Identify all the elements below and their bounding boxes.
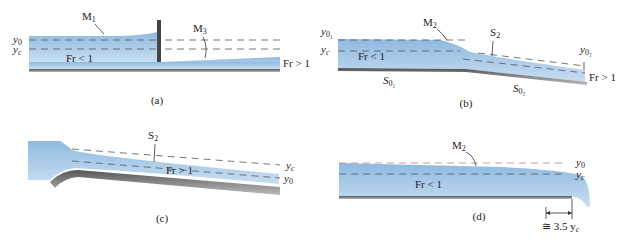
water-upstream bbox=[29, 32, 157, 62]
label-froude-sub: Fr < 1 bbox=[66, 52, 93, 64]
panel-d: M2 y0 yc Fr < 1 ≅ 3.5 yc (d) bbox=[339, 139, 590, 234]
label-yc-c: yc bbox=[285, 159, 295, 173]
label-slope1: S0₁ bbox=[383, 74, 396, 88]
panel-a: M1 M3 y0 yc Fr < 1 Fr > 1 (a) bbox=[12, 10, 310, 107]
caption-a: (a) bbox=[151, 94, 164, 107]
arrow-s2 bbox=[492, 41, 493, 56]
water-d bbox=[339, 163, 590, 207]
label-m3: M3 bbox=[193, 22, 207, 36]
label-y02: y0₂ bbox=[579, 43, 592, 57]
channel-bed bbox=[29, 69, 280, 72]
panel-b: M2 S2 y0₁ yc y0₂ Fr < 1 Fr > 1 S0₁ S0₂ (… bbox=[320, 16, 616, 110]
label-m2: M2 bbox=[423, 16, 437, 30]
label-froude-super: Fr > 1 bbox=[283, 57, 310, 69]
label-yc-d: yc bbox=[575, 168, 585, 182]
label-froude-c: Fr > 1 bbox=[166, 164, 193, 176]
arrow-s2-c bbox=[154, 144, 155, 162]
dimension-marker bbox=[546, 199, 572, 219]
label-y01: y0₁ bbox=[320, 25, 333, 39]
label-froude-d: Fr < 1 bbox=[415, 178, 442, 190]
label-froude-sub-b: Fr < 1 bbox=[358, 50, 385, 62]
caption-d: (d) bbox=[473, 210, 486, 223]
label-slope2: S0₂ bbox=[513, 82, 526, 96]
label-m2-d: M2 bbox=[452, 139, 466, 153]
caption-c: (c) bbox=[156, 212, 169, 225]
label-s2-c: S2 bbox=[148, 129, 158, 143]
caption-b: (b) bbox=[460, 97, 473, 110]
label-yc-b: yc bbox=[320, 43, 330, 57]
panel-c: S2 yc y0 Fr > 1 (c) bbox=[28, 129, 295, 225]
arrow-m2 bbox=[437, 29, 447, 40]
sluice-gate bbox=[157, 20, 161, 62]
label-distance: ≅ 3.5 yc bbox=[542, 220, 580, 234]
label-m1: M1 bbox=[82, 10, 96, 24]
open-channel-flow-diagram: M1 M3 y0 yc Fr < 1 Fr > 1 (a) M2 S2 y0₁ … bbox=[0, 0, 629, 240]
arrow-m1 bbox=[95, 24, 104, 34]
bed-d bbox=[339, 196, 572, 199]
arrow-m2-d bbox=[466, 152, 476, 166]
label-froude-super-b: Fr > 1 bbox=[589, 71, 616, 83]
label-y0-c: y0 bbox=[283, 172, 293, 186]
label-s2: S2 bbox=[490, 26, 500, 40]
